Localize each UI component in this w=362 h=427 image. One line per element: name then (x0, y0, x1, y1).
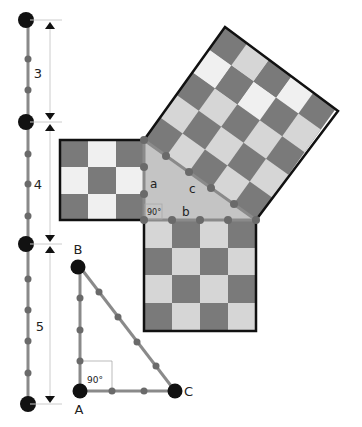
stake-dot (71, 260, 86, 275)
side-c-label: c (189, 182, 196, 196)
segment-label-4: 4 (34, 177, 42, 192)
arrow-down-icon (45, 113, 55, 120)
vertex-a-label: A (75, 402, 84, 417)
arrow-up-icon (45, 124, 55, 131)
stake-dot (73, 384, 88, 399)
side-b-label: b (182, 205, 190, 219)
dimension-lines: 3 4 5 (30, 20, 62, 404)
square-b (144, 220, 256, 331)
segment-label-3: 3 (34, 66, 42, 81)
arrow-up-icon (45, 22, 55, 29)
arrow-down-icon (45, 235, 55, 242)
square-a (60, 140, 144, 220)
vertex-c-label: C (184, 384, 193, 399)
vertex-b-label: B (74, 242, 83, 257)
stake-dot (168, 384, 183, 399)
arrow-down-icon (45, 396, 55, 403)
right-angle-label: 90° (87, 375, 103, 385)
side-a-label: a (150, 177, 157, 191)
right-angle-label: 90° (147, 208, 161, 217)
arrow-up-icon (45, 246, 55, 253)
pythagoras-diagram: 3 4 5 (0, 0, 362, 427)
segment-label-5: 5 (36, 319, 44, 334)
